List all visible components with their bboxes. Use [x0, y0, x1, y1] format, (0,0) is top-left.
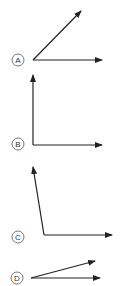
option-d[interactable]: D — [11, 261, 100, 284]
option-a[interactable]: A — [12, 11, 102, 66]
angle-diagram: A B C D — [0, 0, 123, 286]
option-label: D — [14, 274, 20, 283]
ray-arrow — [33, 11, 81, 60]
ray-arrow — [31, 261, 95, 278]
option-label: A — [15, 56, 21, 65]
ray-arrow — [33, 167, 44, 235]
option-label: B — [15, 140, 20, 149]
option-c[interactable]: C — [12, 167, 112, 243]
option-label: C — [15, 233, 21, 242]
option-b[interactable]: B — [12, 75, 102, 150]
